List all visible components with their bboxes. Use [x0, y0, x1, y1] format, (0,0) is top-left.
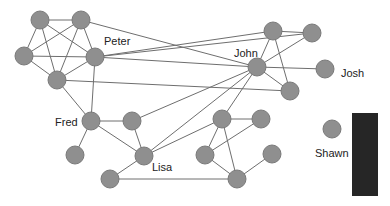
node-label-peter: Peter [104, 35, 131, 47]
edge-peter-fred [91, 57, 95, 121]
node-m4[interactable] [263, 145, 281, 163]
node-f2[interactable] [123, 112, 141, 130]
node-c[interactable] [15, 47, 33, 65]
node-m5[interactable] [228, 170, 246, 188]
node-t1[interactable] [264, 22, 282, 40]
nodes-layer [15, 11, 341, 188]
node-shawn[interactable] [323, 120, 341, 138]
node-t2[interactable] [303, 24, 321, 42]
node-label-fred: Fred [55, 116, 78, 128]
edge-lisa-john [144, 67, 257, 156]
node-e[interactable] [48, 71, 66, 89]
edge-c-peter [24, 56, 95, 57]
edge-peter-john [95, 57, 257, 67]
node-a[interactable] [31, 11, 49, 29]
node-m1[interactable] [213, 110, 231, 128]
node-m3[interactable] [196, 146, 214, 164]
edge-b-e [57, 20, 81, 80]
node-john[interactable] [248, 58, 266, 76]
node-label-shawn: Shawn [315, 147, 349, 159]
edge-john-josh [257, 67, 325, 69]
node-r[interactable] [281, 82, 299, 100]
node-f3[interactable] [66, 146, 84, 164]
node-fred[interactable] [82, 112, 100, 130]
node-peter[interactable] [86, 48, 104, 66]
node-label-lisa: Lisa [152, 161, 173, 173]
edge-e-r [57, 80, 290, 91]
node-l2[interactable] [101, 170, 119, 188]
network-graph: PeterJohnJoshFredLisaShawn [0, 0, 390, 206]
node-lisa[interactable] [135, 147, 153, 165]
node-m2[interactable] [252, 110, 270, 128]
node-label-josh: Josh [341, 67, 364, 79]
node-b[interactable] [72, 11, 90, 29]
dark-side-panel [352, 113, 378, 196]
node-label-john: John [234, 47, 258, 59]
node-josh[interactable] [316, 60, 334, 78]
